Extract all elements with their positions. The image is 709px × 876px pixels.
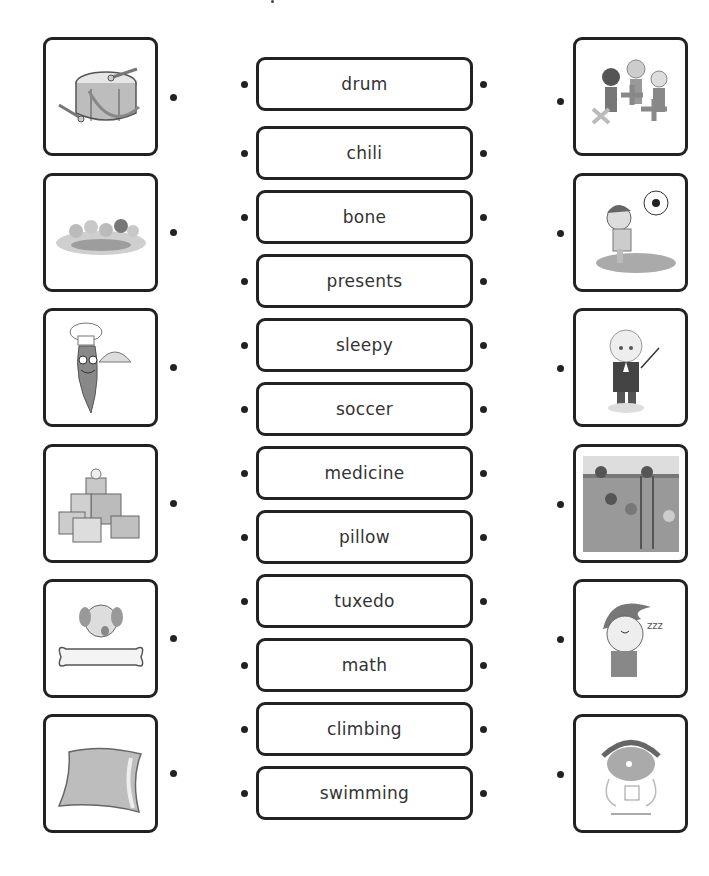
word-left-dot-8[interactable] (241, 534, 248, 541)
medicine-icon (581, 724, 681, 824)
word-right-dot-1[interactable] (480, 81, 487, 88)
word-label: presents (327, 271, 403, 291)
left-picture-bone (43, 579, 158, 698)
word-card-tuxedo: tuxedo (256, 574, 473, 628)
word-card-drum: drum (256, 57, 473, 111)
right-picture-dot-3[interactable] (557, 365, 564, 372)
word-card-climbing: climbing (256, 702, 473, 756)
chili-icon (51, 318, 151, 418)
left-picture-dot-4[interactable] (170, 500, 177, 507)
sleepy-boy-icon: zzz (581, 589, 681, 689)
drum-icon (51, 47, 151, 147)
word-label: tuxedo (334, 591, 394, 611)
word-left-dot-5[interactable] (241, 342, 248, 349)
right-picture-dot-4[interactable] (557, 501, 564, 508)
word-label: pillow (339, 527, 390, 547)
soccer-icon (581, 183, 681, 283)
word-left-dot-7[interactable] (241, 470, 248, 477)
left-picture-drum (43, 37, 158, 156)
left-picture-presents (43, 444, 158, 563)
word-left-dot-10[interactable] (241, 662, 248, 669)
word-card-pillow: pillow (256, 510, 473, 564)
left-picture-pillow (43, 714, 158, 833)
word-right-dot-12[interactable] (480, 790, 487, 797)
right-picture-soccer (573, 173, 688, 292)
word-left-dot-12[interactable] (241, 790, 248, 797)
word-label: bone (343, 207, 387, 227)
word-card-presents: presents (256, 254, 473, 308)
math-kids-icon (581, 47, 681, 147)
word-card-chili: chili (256, 126, 473, 180)
word-right-dot-7[interactable] (480, 470, 487, 477)
word-right-dot-9[interactable] (480, 598, 487, 605)
word-left-dot-1[interactable] (241, 81, 248, 88)
word-right-dot-8[interactable] (480, 534, 487, 541)
word-card-medicine: medicine (256, 446, 473, 500)
word-card-math: math (256, 638, 473, 692)
right-picture-sleepy: zzz (573, 579, 688, 698)
pillow-icon (51, 724, 151, 824)
left-picture-dot-2[interactable] (170, 229, 177, 236)
right-picture-dot-6[interactable] (557, 771, 564, 778)
word-left-dot-9[interactable] (241, 598, 248, 605)
climbing-wall-icon (581, 454, 681, 554)
word-left-dot-3[interactable] (241, 214, 248, 221)
right-picture-climbing (573, 444, 688, 563)
gift-icon (51, 454, 151, 554)
word-card-sleepy: sleepy (256, 318, 473, 372)
word-right-dot-10[interactable] (480, 662, 487, 669)
right-picture-math (573, 37, 688, 156)
left-picture-dot-6[interactable] (170, 770, 177, 777)
word-label: drum (341, 74, 387, 94)
word-right-dot-2[interactable] (480, 150, 487, 157)
word-label: sleepy (336, 335, 393, 355)
left-picture-chili (43, 308, 158, 427)
scan-mark (271, 0, 274, 3)
word-label: soccer (336, 399, 393, 419)
word-left-dot-2[interactable] (241, 150, 248, 157)
word-right-dot-4[interactable] (480, 278, 487, 285)
left-picture-dot-3[interactable] (170, 364, 177, 371)
svg-text:zzz: zzz (647, 620, 663, 631)
word-card-swimming: swimming (256, 766, 473, 820)
word-right-dot-5[interactable] (480, 342, 487, 349)
right-picture-dot-1[interactable] (557, 98, 564, 105)
word-label: chili (347, 143, 383, 163)
word-right-dot-11[interactable] (480, 726, 487, 733)
word-left-dot-11[interactable] (241, 726, 248, 733)
right-picture-dot-2[interactable] (557, 230, 564, 237)
word-left-dot-4[interactable] (241, 278, 248, 285)
word-right-dot-6[interactable] (480, 406, 487, 413)
right-picture-dot-5[interactable] (557, 636, 564, 643)
word-label: medicine (324, 463, 404, 483)
word-card-soccer: soccer (256, 382, 473, 436)
word-label: climbing (327, 719, 402, 739)
dog-bone-icon (51, 589, 151, 689)
left-picture-swimming (43, 173, 158, 292)
word-label: math (342, 655, 388, 675)
word-right-dot-3[interactable] (480, 214, 487, 221)
swimming-icon (51, 183, 151, 283)
word-label: swimming (320, 783, 409, 803)
left-picture-dot-1[interactable] (170, 94, 177, 101)
word-left-dot-6[interactable] (241, 406, 248, 413)
tuxedo-icon (581, 318, 681, 418)
word-card-bone: bone (256, 190, 473, 244)
right-picture-medicine (573, 714, 688, 833)
right-picture-tuxedo (573, 308, 688, 427)
left-picture-dot-5[interactable] (170, 635, 177, 642)
